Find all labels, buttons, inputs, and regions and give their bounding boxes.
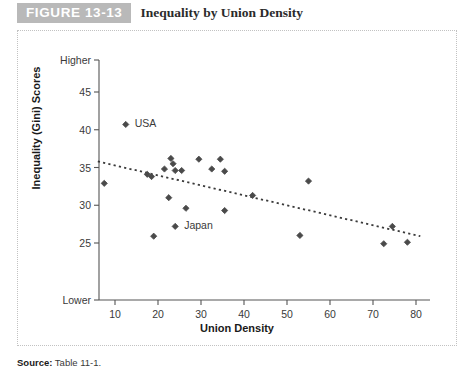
source-text: Table 11-1. (55, 357, 101, 368)
figure-number-badge: FIGURE 13-13 (17, 3, 131, 24)
source-label: Source: (17, 357, 52, 368)
figure-title: Inequality by Union Density (140, 5, 302, 21)
figure-header: FIGURE 13-13 Inequality by Union Density (0, 0, 474, 26)
source-note: Source: Table 11-1. (17, 357, 101, 368)
figure-frame (17, 30, 457, 346)
